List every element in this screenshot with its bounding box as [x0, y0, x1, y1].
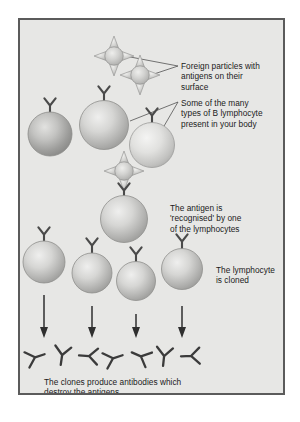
- arrow-4: [178, 306, 186, 338]
- lymphocyte-body: [80, 101, 129, 150]
- figure-root: Foreign particles with antigens on their…: [0, 0, 300, 422]
- lymphocyte-clone-4: [162, 234, 203, 289]
- caption-antigen-recognised: The antigen is 'recognised' by one of th…: [170, 203, 285, 234]
- lymphocyte-2: [80, 86, 129, 149]
- arrow-3: [132, 314, 140, 338]
- lymphocyte-selected: [101, 196, 148, 243]
- lymphocyte-clone-3: [117, 247, 156, 300]
- caption-foreign-particles: Foreign particles with antigens on their…: [181, 61, 285, 92]
- page-bottom-margin: [0, 404, 300, 422]
- caption-clones-antibodies: The clones produce antibodies which dest…: [44, 377, 234, 395]
- lymphocyte-clone-1: [23, 227, 65, 283]
- lymphocyte-body: [130, 123, 175, 168]
- diagram-panel: Foreign particles with antigens on their…: [18, 18, 285, 395]
- antibody-4: [102, 348, 125, 369]
- antibody-5: [129, 345, 152, 367]
- lymphocyte-body: [28, 112, 72, 156]
- antigen-particle-1: [94, 36, 134, 76]
- arrow-2: [88, 306, 96, 338]
- leader-line-antigen-upper: [125, 56, 178, 66]
- clone-arrows: [40, 295, 186, 338]
- stage-antibody-production: [24, 345, 199, 369]
- lymphocyte-3: [130, 108, 175, 167]
- antibody-7: [181, 348, 200, 365]
- caption-b-lymphocytes: Some of the many types of B lymphocyte p…: [181, 98, 285, 129]
- stage-foreign-particles: [94, 36, 160, 95]
- lymphocyte-1: [28, 98, 72, 156]
- antibody-1: [24, 347, 47, 368]
- arrow-1: [40, 295, 48, 338]
- antibody-3: [78, 347, 98, 364]
- stage-b-lymphocyte-variety: [28, 86, 175, 167]
- antibody-2: [53, 345, 71, 366]
- lymphocyte-clone-2: [72, 238, 112, 293]
- antibody-6: [155, 347, 173, 367]
- antigen-particle-2: [120, 55, 160, 95]
- caption-lymphocyte-cloned: The lymphocyte is cloned: [216, 265, 285, 286]
